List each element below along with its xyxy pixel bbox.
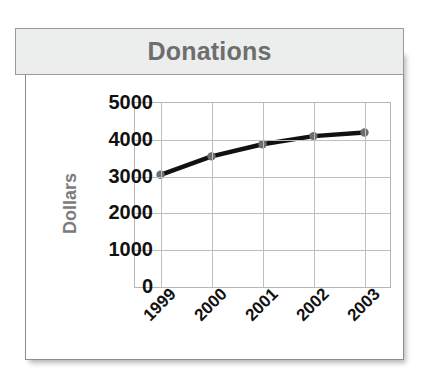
y-axis-tick-label: 4000 (83, 129, 153, 149)
y-axis-tick-label: 1000 (83, 239, 153, 259)
x-axis-tick-label: 2000 (190, 285, 231, 326)
chart-title: Donations (147, 37, 271, 66)
x-axis-tick-label: 2001 (241, 285, 282, 326)
grid-line-vertical (314, 103, 315, 287)
x-axis-tick-label: 1999 (139, 285, 180, 326)
grid-line-vertical (263, 103, 264, 287)
chart-frame: Dollars 010002000300040005000 1999200020… (25, 50, 404, 360)
x-axis-tick-label: 2003 (343, 285, 384, 326)
x-axis-tick-label: 2002 (292, 285, 333, 326)
grid-line-vertical (212, 103, 213, 287)
y-axis-title: Dollars (60, 154, 81, 254)
y-axis-tick-label: 3000 (83, 166, 153, 186)
x-axis-tick-labels: 19992000200120022003 (134, 287, 389, 357)
grid-line-vertical (365, 103, 366, 287)
y-axis-tick-label: 5000 (83, 92, 153, 112)
plot-area (134, 102, 391, 288)
grid-line-vertical (161, 103, 162, 287)
y-axis-tick-label: 2000 (83, 202, 153, 222)
chart-title-banner: Donations (15, 28, 404, 75)
